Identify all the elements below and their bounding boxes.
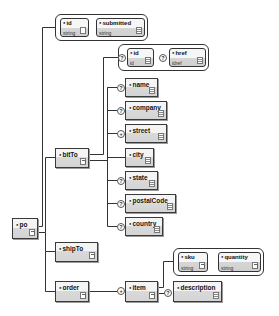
simple-type-icon: [158, 133, 164, 140]
element-label: state: [129, 174, 148, 181]
item-attr-sku[interactable]: sku string: [178, 252, 208, 272]
attr-type: idref: [172, 60, 182, 66]
po-attr-id[interactable]: id string: [60, 18, 89, 37]
one-or-more-marker-icon: +: [117, 130, 125, 138]
simple-type-icon: [149, 180, 155, 187]
attr-label: quantity: [221, 254, 248, 260]
simple-type-icon: [158, 110, 164, 117]
attr-type: string: [99, 30, 111, 36]
attribute-icon: [199, 262, 205, 269]
optional-marker-icon: ?: [117, 223, 125, 231]
optional-marker-icon: ?: [117, 177, 125, 185]
attribute-icon: [136, 27, 142, 34]
element-label: order: [59, 284, 79, 291]
simple-type-icon: [213, 292, 219, 299]
attribute-icon: [197, 57, 203, 64]
element-country[interactable]: country: [125, 217, 163, 236]
complex-type-icon: [80, 158, 86, 165]
element-po[interactable]: po: [12, 218, 38, 239]
complex-type-icon: [29, 229, 35, 236]
attr-label: id: [130, 50, 139, 56]
optional-marker-icon: ?: [117, 84, 125, 92]
element-item[interactable]: item: [125, 281, 158, 302]
element-state[interactable]: state: [125, 171, 158, 190]
schema-diagram: id string submitted string ? id id ? hre…: [0, 0, 279, 316]
billto-attr-href[interactable]: href idref: [169, 48, 206, 67]
optional-marker-icon: ?: [117, 107, 125, 115]
complex-type-icon: [149, 292, 155, 299]
po-attr-submitted[interactable]: submitted string: [96, 18, 145, 37]
element-label: description: [177, 284, 215, 291]
element-street[interactable]: street: [125, 124, 167, 143]
attr-label: sku: [181, 254, 195, 260]
simple-type-icon: [167, 203, 173, 210]
element-name[interactable]: name: [125, 78, 158, 97]
element-order[interactable]: order: [55, 281, 89, 302]
element-city[interactable]: city: [125, 148, 154, 167]
attr-label: submitted: [99, 20, 131, 26]
attr-type: id: [130, 60, 134, 66]
element-label: company: [129, 104, 161, 111]
attribute-icon: [80, 27, 86, 34]
billto-attribute-group: ? id id ? href idref: [118, 44, 209, 71]
element-billto[interactable]: bitTo: [55, 148, 89, 168]
element-shipto[interactable]: shipTo: [55, 242, 98, 262]
complex-type-icon: [89, 252, 95, 259]
element-label: country: [129, 220, 156, 227]
billto-attr-id[interactable]: id id: [127, 48, 154, 67]
simple-type-icon: [145, 157, 151, 164]
po-attribute-group: id string submitted string: [55, 14, 148, 41]
element-label: name: [129, 81, 149, 88]
element-label: street: [129, 127, 150, 134]
complex-type-icon: [80, 292, 86, 299]
attr-label: id: [63, 20, 72, 26]
element-label: postalCode: [129, 197, 168, 204]
attribute-icon: [145, 57, 151, 64]
optional-marker-icon: ?: [118, 54, 126, 62]
element-label: city: [129, 151, 144, 158]
attr-label: href: [172, 50, 187, 56]
element-label: bitTo: [59, 151, 78, 158]
optional-marker-icon: ?: [164, 289, 172, 297]
attr-type: string: [63, 30, 75, 36]
simple-type-icon: [154, 226, 160, 233]
attr-type: string: [181, 265, 193, 271]
element-company[interactable]: company: [125, 101, 167, 120]
element-postalcode[interactable]: postalCode: [125, 194, 176, 213]
attribute-icon: [252, 262, 258, 269]
one-or-more-marker-icon: +: [117, 287, 125, 295]
optional-marker-icon: ?: [117, 200, 125, 208]
simple-type-icon: [149, 87, 155, 94]
attr-type: string: [221, 265, 233, 271]
element-label: shipTo: [59, 245, 83, 252]
element-description[interactable]: description: [173, 281, 222, 302]
element-label: po: [16, 221, 27, 228]
optional-marker-icon: ?: [159, 54, 167, 62]
item-attribute-group: sku string quantity string: [173, 248, 264, 276]
item-attr-quantity[interactable]: quantity string: [218, 252, 261, 272]
element-label: item: [129, 284, 146, 291]
